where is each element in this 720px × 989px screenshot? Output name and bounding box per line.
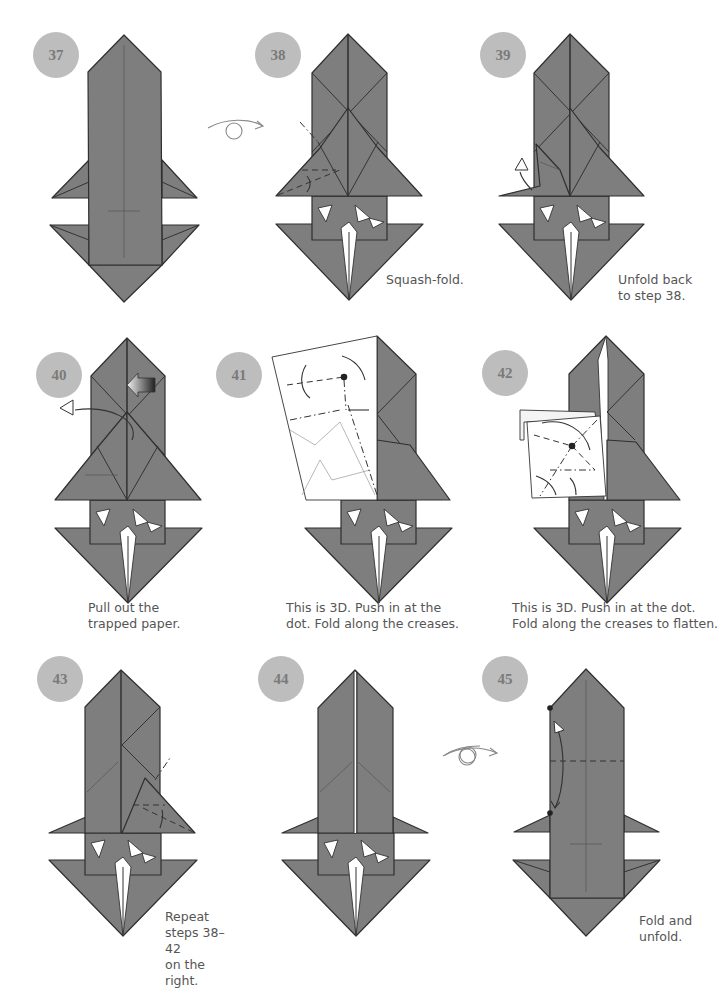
step-45-panel: 45 Fold and unfold. (440, 650, 720, 974)
step-41-caption: This is 3D. Push in at the dot. Fold alo… (286, 600, 459, 632)
step-37-panel: 37 (0, 0, 240, 324)
turn-over-icon (443, 748, 497, 765)
push-dot-icon (569, 443, 576, 450)
step-42-model-diagram (480, 320, 720, 644)
step-39-caption: Unfold back to step 38. (618, 272, 692, 304)
step-41-model-diagram (240, 320, 480, 644)
step-42-caption: This is 3D. Push in at the dot. Fold alo… (512, 600, 718, 632)
fold-dot-icon (547, 810, 553, 816)
step-45-caption: Fold and unfold. (639, 913, 692, 945)
step-43-caption: Repeat steps 38–42 on the right. (165, 909, 240, 989)
step-40-panel: 40 Pull out the trapped pape (0, 320, 240, 644)
push-dot-icon (341, 374, 348, 381)
unfold-arrow-icon (515, 158, 532, 190)
fold-dot-icon (547, 705, 553, 711)
step-38-panel: 38 Squash-fold. (240, 0, 480, 324)
step-38-caption: Squash-fold. (386, 272, 464, 288)
step-40-model-diagram (0, 320, 240, 644)
step-39-panel: 39 Unfold back to step 38. (480, 0, 720, 324)
step-42-panel: 42 This is 3D. Push in at the dot. Fold … (480, 320, 720, 644)
step-37-model-diagram (0, 0, 240, 324)
step-40-caption: Pull out the trapped paper. (88, 600, 180, 632)
step-41-panel: 41 This is 3D. Push in at the dot. Fold … (240, 320, 480, 644)
step-43-panel: 43 Repeat steps 38–42 on the right. (0, 650, 240, 974)
